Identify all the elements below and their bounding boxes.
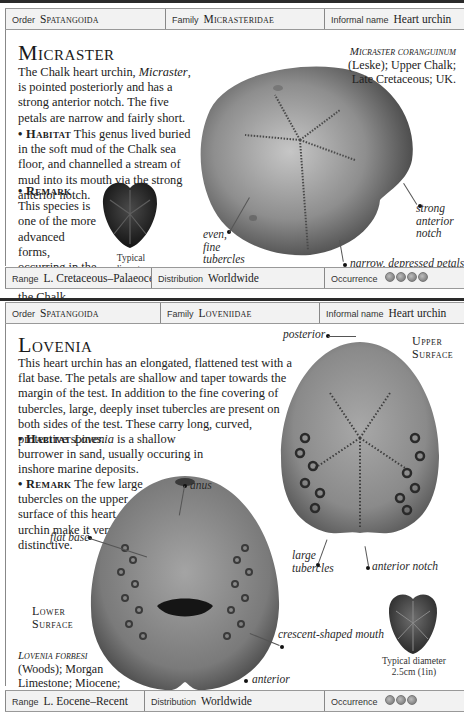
informal-name-cell: Informal name Heart urchin — [319, 303, 464, 323]
occurrence-icon — [407, 695, 417, 705]
pointer-dot — [418, 204, 422, 208]
family-label: Family — [172, 15, 199, 25]
top-rule — [0, 0, 464, 3]
annotation-large-tubercles: large tubercles — [292, 549, 332, 574]
remark-heading: • Remark — [18, 477, 71, 491]
annotation-crescent-shaped-mouth: crescent-shaped mouth — [278, 628, 384, 641]
family-value: Loveniidae — [199, 307, 252, 319]
pointer-dot — [366, 566, 370, 570]
lovenia-small-specimen-image — [386, 591, 440, 655]
left-frame-rule — [5, 324, 6, 686]
genus-italic: Lovenia — [74, 432, 114, 446]
annotation-flat-base: flat base — [50, 531, 89, 544]
family-cell: Family Micrasteridae — [165, 9, 324, 29]
annotation-strong-anterior-notch: strong anterior notch — [416, 202, 460, 240]
distribution-value: Worldwide — [201, 695, 252, 707]
specimen-caption: Micraster coranguinum (Leske); Upper Cha… — [326, 44, 456, 86]
annotation-text: anterior — [252, 673, 290, 685]
leader-line — [365, 546, 369, 566]
occurrence-icon — [385, 695, 395, 705]
leader-line — [328, 336, 356, 337]
genus-title: Micraster — [18, 40, 115, 66]
lower-surface-label: Lower Surface — [32, 605, 92, 631]
annotation-anterior: anterior — [252, 673, 290, 686]
family-label: Family — [167, 309, 194, 319]
occurrence-rating — [385, 695, 417, 705]
species-name: Micraster coranguinum — [326, 44, 456, 58]
range-value: L. Cretaceous–Palaeocene — [44, 272, 151, 284]
informal-name-label: Informal name — [326, 309, 384, 319]
annotation-text: anus — [190, 479, 212, 491]
range-bar: Range L. Cretaceous–Palaeocene Distribut… — [5, 267, 464, 289]
annotation-anterior-notch: anterior notch — [372, 560, 438, 573]
pointer-dot — [280, 645, 284, 649]
family-cell: Family Loveniidae — [160, 303, 319, 323]
distribution-cell: Distribution Worldwide — [144, 691, 324, 711]
informal-name-value: Heart urchin — [394, 13, 452, 25]
order-value: Spatangoida — [40, 13, 99, 25]
distribution-label: Distribution — [151, 697, 196, 707]
annotation-text: even, fine tubercles — [203, 228, 243, 266]
informal-name-label: Informal name — [331, 15, 389, 25]
remark-text: This species is one of the more advanced… — [18, 199, 98, 305]
occurrence-cell: Occurrence — [324, 268, 464, 288]
micraster-small-specimen-image — [100, 178, 160, 250]
range-bar: Range L. Eocene–Recent Distribution Worl… — [5, 690, 464, 712]
occurrence-label: Occurrence — [331, 274, 378, 284]
classification-bar: Order Spatangoida Family Loveniidae Info… — [5, 302, 464, 324]
annotation-text: flat base — [50, 531, 89, 543]
lovenia-upper-surface-image — [275, 338, 445, 538]
genus-title: Lovenia — [18, 332, 92, 358]
classification-bar: Order Spatangoida Family Micrasteridae I… — [5, 8, 464, 30]
intro-text: The Chalk heart urchin, — [18, 65, 139, 79]
typical-diameter-label: Typical diameter — [378, 656, 450, 667]
order-value: Spatangoida — [40, 307, 99, 319]
range-value: L. Eocene–Recent — [44, 695, 128, 707]
occurrence-icon — [418, 272, 428, 282]
order-cell: Order Spatangoida — [5, 9, 165, 29]
informal-name-value: Heart urchin — [389, 307, 447, 319]
annotation-even-fine-tubercles: even, fine tubercles — [203, 228, 243, 266]
occurrence-label: Occurrence — [331, 697, 378, 707]
entry-micraster: Order Spatangoida Family Micrasteridae I… — [0, 0, 464, 300]
annotation-text: anterior notch — [372, 560, 438, 572]
informal-name-cell: Informal name Heart urchin — [324, 9, 464, 29]
annotation-anus: anus — [190, 479, 212, 492]
distribution-value: Worldwide — [208, 272, 259, 284]
genus-italic: Micraster — [139, 65, 188, 79]
family-value: Micrasteridae — [204, 13, 275, 25]
distribution-label: Distribution — [158, 274, 203, 284]
upper-surface-label: Upper Surface — [412, 335, 464, 361]
typical-diameter: Typical diameter 2.5cm (1in) — [378, 656, 450, 678]
annotation-text: crescent-shaped mouth — [278, 628, 384, 641]
left-frame-rule — [5, 30, 6, 266]
annotation-text: strong anterior notch — [416, 202, 460, 240]
remark-heading: • Remark — [18, 184, 98, 199]
distribution-cell: Distribution Worldwide — [151, 268, 324, 288]
pointer-dot — [316, 563, 320, 567]
range-label: Range — [12, 697, 39, 707]
occurrence-cell: Occurrence — [324, 691, 464, 711]
annotation-posterior: posterior — [283, 328, 325, 341]
occurrence-rating — [385, 272, 428, 282]
occurrence-icon — [396, 272, 406, 282]
habitat-heading: • Habitat — [18, 127, 71, 141]
range-cell: Range L. Cretaceous–Palaeocene — [5, 268, 151, 288]
typical-diameter-value: 2.5cm (1in) — [378, 667, 450, 678]
entry-lovenia: Order Spatangoida Family Loveniidae Info… — [0, 298, 464, 716]
occurrence-icon — [385, 272, 395, 282]
order-label: Order — [12, 309, 35, 319]
occurrence-icon — [407, 272, 417, 282]
range-cell: Range L. Eocene–Recent — [5, 691, 144, 711]
specimen-details: (Leske); Upper Chalk; Late Cretaceous; U… — [326, 58, 456, 86]
order-cell: Order Spatangoida — [5, 303, 160, 323]
description: The Chalk heart urchin, Micraster, is po… — [18, 65, 193, 126]
occurrence-icon — [396, 695, 406, 705]
habitat-heading: • Habitat — [18, 432, 71, 446]
annotation-text: posterior — [283, 328, 325, 340]
range-label: Range — [12, 274, 39, 284]
order-label: Order — [12, 15, 35, 25]
pointer-dot — [244, 679, 248, 683]
annotation-text: large tubercles — [292, 549, 332, 574]
top-rule — [0, 298, 464, 301]
